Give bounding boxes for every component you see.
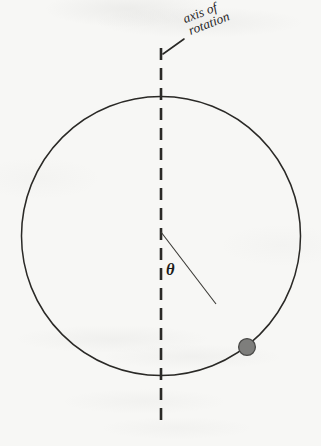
bead-icon	[239, 339, 256, 356]
theta-angle-label: θ	[166, 262, 175, 279]
axis-label-leader-line	[163, 39, 184, 54]
diagram-canvas	[0, 0, 321, 446]
physics-figure: axis of rotation θ	[0, 0, 321, 446]
